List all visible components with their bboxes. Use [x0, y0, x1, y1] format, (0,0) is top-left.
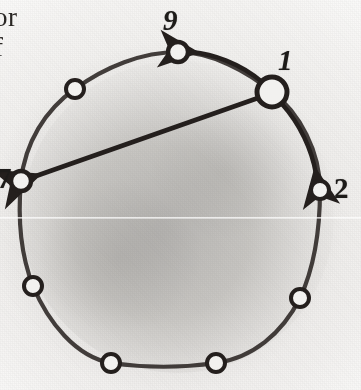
ring-graph-figure [0, 0, 361, 390]
node-5[interactable] [102, 354, 120, 372]
node-label-1: 1 [278, 46, 293, 75]
node-4[interactable] [207, 354, 225, 372]
figure-page: or f [0, 0, 361, 390]
node-8[interactable] [66, 80, 84, 98]
node-label-9: 9 [163, 6, 178, 35]
node-1[interactable] [257, 77, 287, 107]
node-label-2: 2 [334, 174, 349, 203]
node-9[interactable] [168, 42, 188, 62]
node-6[interactable] [24, 277, 42, 295]
node-7[interactable] [11, 171, 31, 191]
node-2[interactable] [311, 181, 329, 199]
node-label-7: 7 [0, 164, 12, 193]
node-3[interactable] [291, 289, 309, 307]
